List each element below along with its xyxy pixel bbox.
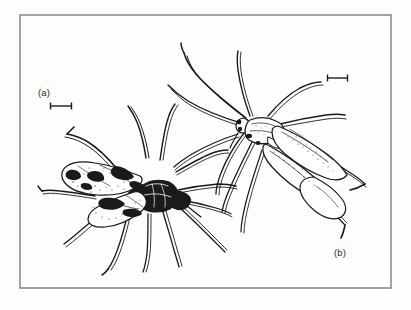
figure-plate-canvas: (a) (b) xyxy=(0,0,411,310)
figure-plate: (a) (b) xyxy=(0,0,411,310)
panel-label-a: (a) xyxy=(38,87,50,98)
plate-background xyxy=(0,0,411,310)
panel-label-b: (b) xyxy=(334,247,346,258)
